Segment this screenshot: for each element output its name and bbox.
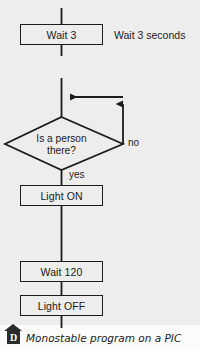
flowchart-figure: Wait 3 Wait 3 seconds Is a person there?… — [0, 0, 200, 349]
decision-label: Is a person there? — [12, 133, 111, 156]
decision-label-line1: Is a person — [12, 133, 111, 145]
annotation-wait3-seconds: Wait 3 seconds — [114, 29, 185, 41]
branch-label-yes: yes — [69, 169, 85, 180]
decision-label-line2: there? — [12, 145, 111, 157]
process-box-wait3[interactable]: Wait 3 — [20, 24, 103, 45]
process-box-light-off-label: Light OFF — [38, 300, 86, 312]
branch-label-no: no — [128, 137, 139, 148]
process-box-wait120-label: Wait 120 — [41, 266, 83, 278]
process-box-wait120[interactable]: Wait 120 — [20, 261, 103, 282]
process-box-light-on-label: Light ON — [40, 190, 82, 202]
process-box-light-on[interactable]: Light ON — [20, 185, 103, 206]
process-box-wait3-label: Wait 3 — [47, 29, 77, 41]
caption-badge: D — [7, 331, 20, 344]
process-box-light-off[interactable]: Light OFF — [20, 295, 103, 316]
roof-marker-icon — [4, 324, 22, 331]
caption-text: Monostable program on a PIC — [26, 332, 181, 344]
